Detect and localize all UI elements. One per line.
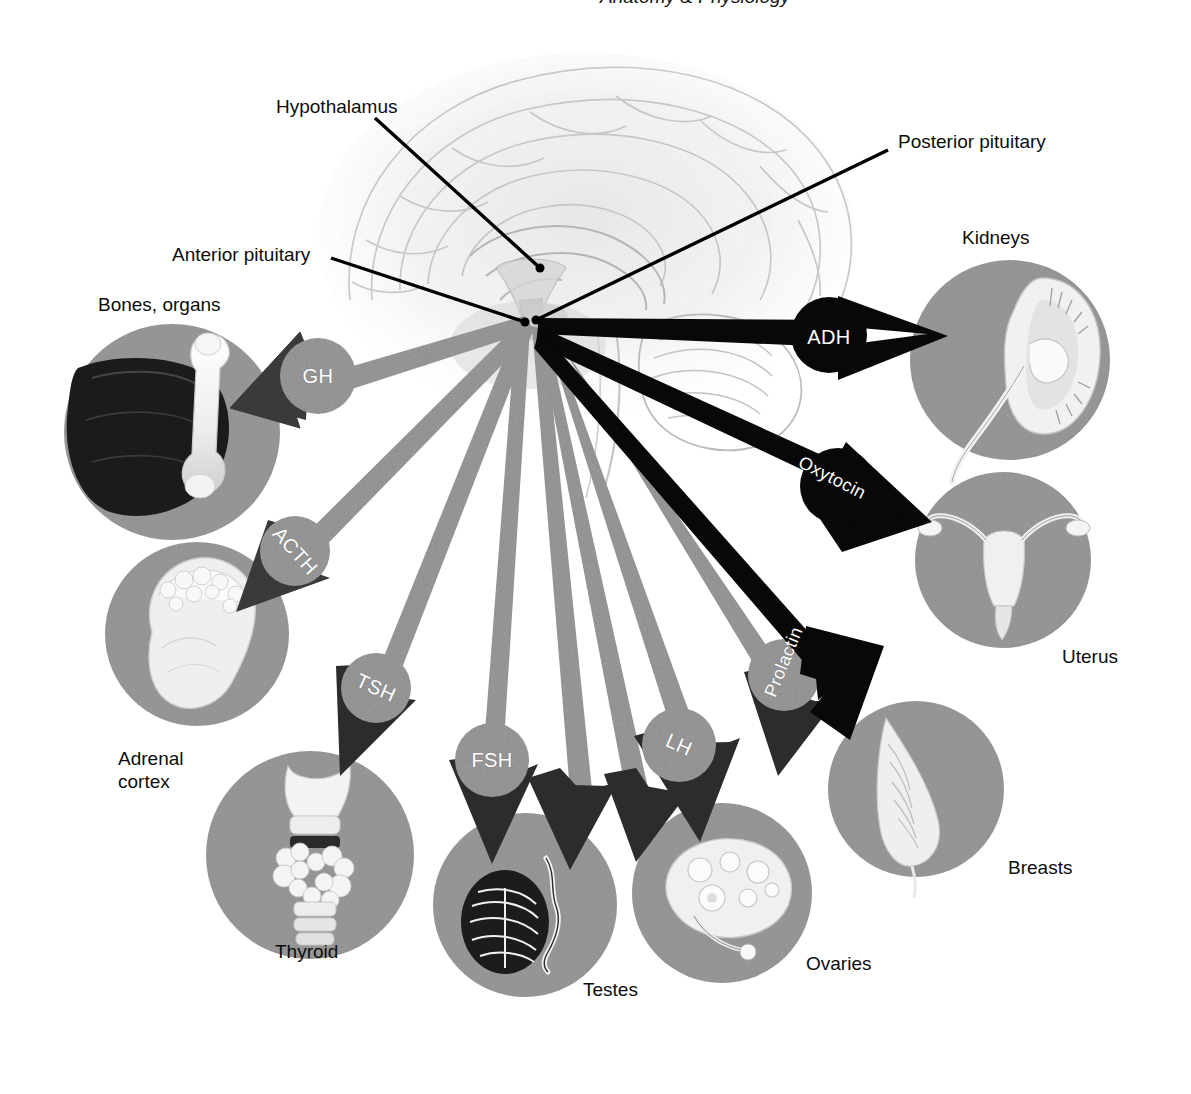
label-adrenal-cortex: Adrenalcortex (118, 747, 238, 793)
label-hypothalamus: Hypothalamus (276, 95, 397, 118)
label-thyroid: Thyroid (275, 940, 338, 963)
label-ovaries: Ovaries (806, 952, 871, 975)
organ-circle-kidneys (910, 260, 1110, 482)
label-kidneys: Kidneys (962, 226, 1030, 249)
organ-circle-bones-organs (64, 324, 280, 540)
label-testes: Testes (583, 978, 638, 1001)
label-adrenal-line2: cortex (118, 771, 170, 792)
organ-circle-testes (433, 813, 617, 997)
label-adrenal-line1: Adrenal (118, 748, 184, 769)
endocrine-diagram-figure: Anatomy & Physiology (0, 0, 1191, 1094)
label-breasts: Breasts (1008, 856, 1072, 879)
label-posterior-pituitary: Posterior pituitary (898, 130, 1046, 153)
organ-circle-uterus (915, 472, 1091, 648)
label-uterus: Uterus (1062, 645, 1118, 668)
liver-femur-art (67, 333, 230, 516)
organ-circle-breasts (828, 701, 1004, 898)
diagram-canvas (0, 0, 1191, 1094)
label-anterior-pituitary: Anterior pituitary (172, 243, 310, 266)
label-bones-organs: Bones, organs (98, 293, 221, 316)
